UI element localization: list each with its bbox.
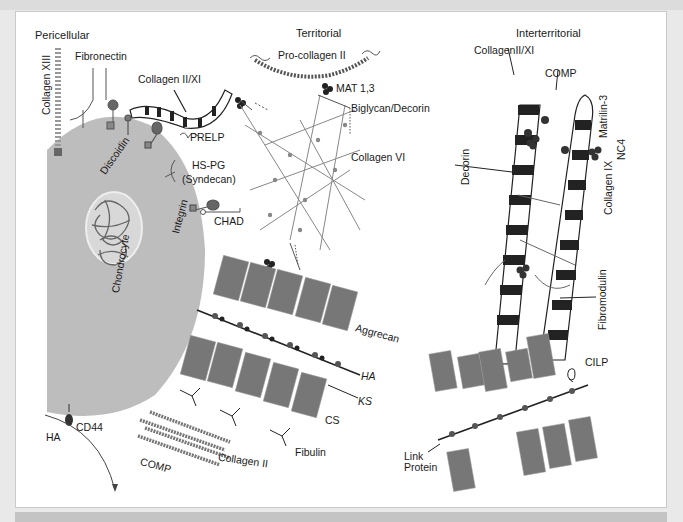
interterritorial-aggrecan [428, 333, 597, 491]
collagen-vi-network [240, 95, 365, 250]
label-hs-pg: HS-PG [192, 160, 225, 171]
cilp-shape [568, 369, 575, 382]
label-collagen-vi: Collagen VI [351, 152, 405, 163]
interterritorial-fibrils [495, 95, 593, 364]
label-collagen-ii-xi: Collagen II/XI [138, 74, 201, 85]
region-pericellular: Pericellular [35, 30, 89, 41]
biglycan-decorin-shape [240, 95, 350, 270]
label-ha-left: HA [46, 432, 61, 443]
region-territorial: Territorial [296, 28, 341, 39]
label-cs: CS [325, 415, 340, 426]
collagen-ii-xi-fibril [130, 90, 246, 128]
label-fibronectin: Fibronectin [75, 51, 127, 62]
ks-arrow [328, 385, 358, 398]
label-syndecan: (Syndecan) [182, 174, 236, 185]
label-biglycan-decorin: Biglycan/Decorin [351, 103, 430, 114]
collagen-ii-xi-arrow [174, 90, 186, 112]
label-mat-1-3: MAT 1,3 [336, 83, 375, 94]
label-nc4: NC4 [616, 139, 627, 160]
label-matrilin-3: Matrilin-3 [598, 95, 609, 138]
mat-1-3-cluster [322, 83, 333, 95]
label-chad: CHAD [214, 216, 244, 227]
label-cilp: CILP [585, 357, 608, 368]
label-ha-right: HA [361, 371, 376, 382]
region-interterritorial: Interterritorial [516, 28, 581, 39]
label-collagen-xiii: Collagen XIII [41, 55, 52, 115]
label-comp-inter: COMP [545, 68, 577, 79]
nucleus [86, 192, 142, 264]
label-fibulin: Fibulin [295, 447, 326, 458]
label-ks: KS [358, 396, 372, 407]
label-decorin: Decorin [460, 149, 471, 185]
label-link-protein: Link Protein [404, 451, 444, 473]
label-prelp: PRELP [190, 132, 224, 143]
label-collagen-ix: Collagen IX [603, 161, 614, 215]
label-collagenii-xi-inter: CollagenII/XI [474, 45, 534, 56]
label-fibromodulin: Fibromodulin [597, 269, 608, 330]
label-cd44: CD44 [76, 422, 103, 433]
label-pro-collagen-ii: Pro-collagen II [278, 50, 346, 61]
aggrecan-aggregate [180, 255, 360, 417]
diagram-canvas [0, 0, 683, 522]
